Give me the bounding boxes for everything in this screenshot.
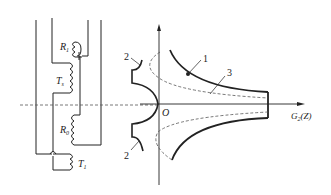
r1-loop: [75, 42, 81, 56]
label-r0: R0: [59, 124, 69, 136]
r0-coil: [72, 115, 75, 145]
ts-coil: [70, 63, 73, 93]
curve-1-top: [170, 50, 268, 92]
leader-1: [188, 60, 201, 74]
label-curve-2-bottom: 2: [124, 150, 129, 161]
label-r1: R1: [59, 41, 69, 53]
label-curve-2-top: 2: [124, 51, 129, 62]
r1-coil: [73, 42, 76, 57]
circuit-schematic: [36, 18, 101, 170]
label-t1: T1: [78, 158, 87, 170]
label-curve-3: 3: [227, 67, 232, 78]
plot: 1 3 2 2 O G2(Z): [124, 24, 312, 185]
leader-3: [210, 76, 225, 94]
diagram-svg: R1 Ts R0 T1 1 3 2 2 O G2(Z): [0, 0, 331, 195]
leader-2-bottom: [131, 141, 139, 150]
x-axis-label: G2(Z): [291, 111, 312, 122]
label-ts: Ts: [56, 75, 65, 87]
y-axis-arrow-icon: [157, 24, 161, 31]
x-axis-arrow-icon: [297, 102, 305, 106]
curve-1-bottom: [172, 118, 268, 160]
circuit-labels: R1 Ts R0 T1: [56, 41, 87, 170]
t1-coil: [70, 154, 73, 170]
origin-label: O: [162, 107, 169, 118]
label-curve-1: 1: [203, 53, 208, 64]
diagram-canvas: R1 Ts R0 T1 1 3 2 2 O G2(Z): [0, 0, 331, 195]
leader-2-top: [131, 58, 140, 65]
